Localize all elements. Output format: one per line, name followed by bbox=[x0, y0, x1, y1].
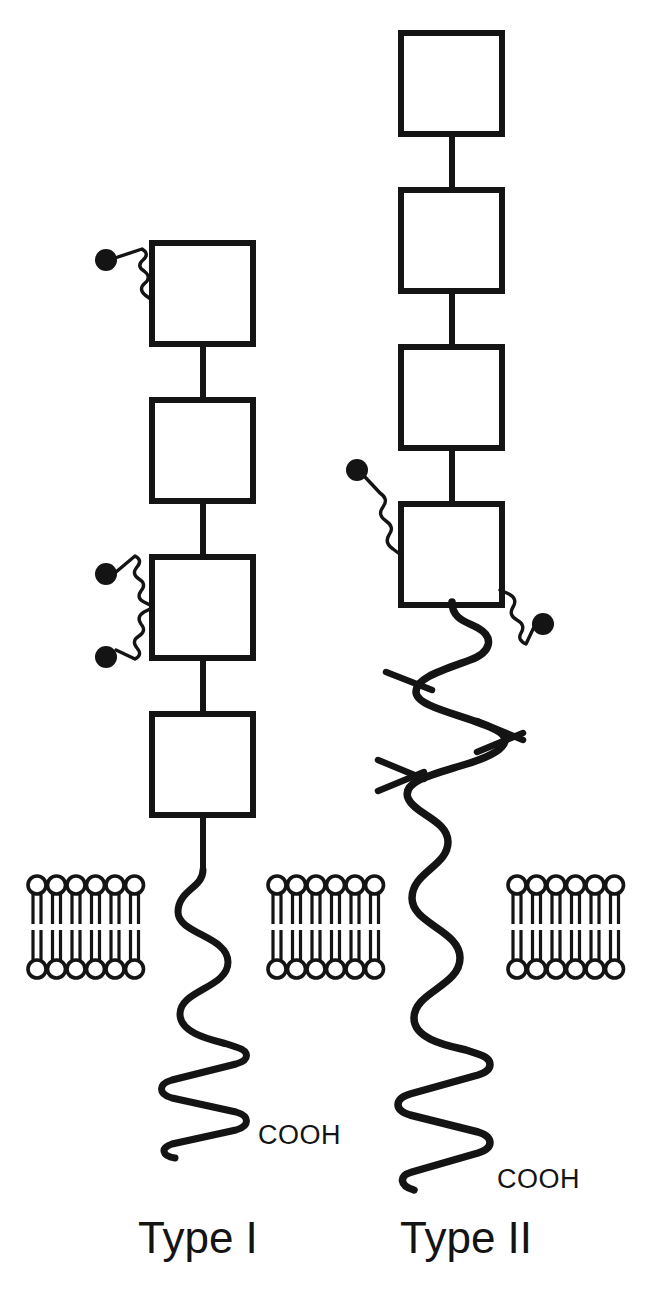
lipid-head-icon bbox=[48, 876, 66, 894]
phospholipid bbox=[268, 930, 286, 978]
type-one-domain-1[interactable] bbox=[152, 243, 253, 344]
lipid-head-icon bbox=[28, 960, 46, 978]
lipid-head-icon bbox=[106, 876, 124, 894]
lipid-head-icon bbox=[126, 960, 144, 978]
phospholipid bbox=[586, 930, 604, 978]
lipid-head-icon bbox=[87, 876, 105, 894]
membrane-protein-diagram: COOH COOH Type I Type II bbox=[0, 0, 663, 1295]
phospholipid bbox=[28, 930, 46, 978]
phospholipid bbox=[87, 930, 105, 978]
cooh-label-type-one: COOH bbox=[258, 1120, 341, 1150]
lipid-head-icon bbox=[508, 876, 526, 894]
phospholipid bbox=[606, 930, 624, 978]
type-two-domain-3[interactable] bbox=[401, 347, 502, 448]
phospholipid bbox=[586, 876, 604, 924]
lipid-head-icon bbox=[567, 960, 585, 978]
glycan-dot-icon bbox=[95, 563, 117, 585]
phospholipid bbox=[327, 930, 345, 978]
glycan-dot-icon bbox=[346, 459, 368, 481]
lipid-head-icon bbox=[366, 960, 384, 978]
lipid-head-icon bbox=[508, 960, 526, 978]
phospholipid bbox=[346, 876, 364, 924]
lipid-head-icon bbox=[126, 876, 144, 894]
lipid-head-icon bbox=[67, 876, 85, 894]
lipid-head-icon bbox=[606, 960, 624, 978]
lipid-head-icon bbox=[48, 960, 66, 978]
phospholipid bbox=[547, 876, 565, 924]
lipid-head-icon bbox=[606, 876, 624, 894]
membrane-middle bbox=[268, 876, 384, 978]
lipid-head-icon bbox=[586, 960, 604, 978]
phospholipid bbox=[508, 930, 526, 978]
lipid-head-icon bbox=[346, 876, 364, 894]
phospholipid bbox=[346, 930, 364, 978]
cooh-label-type-two: COOH bbox=[497, 1164, 580, 1194]
phospholipid bbox=[528, 876, 546, 924]
phospholipid bbox=[288, 930, 306, 978]
lipid-head-icon bbox=[547, 876, 565, 894]
glycan-dot-icon bbox=[95, 646, 117, 668]
phospholipid bbox=[288, 876, 306, 924]
type-one-domain-3[interactable] bbox=[152, 557, 253, 658]
type-two-domain-1[interactable] bbox=[401, 33, 502, 134]
lipid-head-icon bbox=[327, 876, 345, 894]
lipid-head-icon bbox=[346, 960, 364, 978]
glycan-dot-icon bbox=[532, 613, 554, 635]
phospholipid bbox=[327, 876, 345, 924]
lipid-head-icon bbox=[567, 876, 585, 894]
type-one-chain bbox=[162, 870, 247, 1158]
glycan-domain4-left[interactable] bbox=[346, 459, 401, 555]
lipid-head-icon bbox=[528, 960, 546, 978]
phospholipid bbox=[67, 930, 85, 978]
membrane-left bbox=[28, 876, 144, 978]
phospholipid bbox=[366, 876, 384, 924]
type-one-domain-4[interactable] bbox=[152, 714, 253, 815]
lipid-head-icon bbox=[288, 960, 306, 978]
phospholipid bbox=[528, 930, 546, 978]
phospholipid bbox=[508, 876, 526, 924]
glycan-domain3-lower[interactable] bbox=[95, 608, 152, 668]
type-one-label: Type I bbox=[138, 1213, 258, 1262]
type-two-domain-4[interactable] bbox=[401, 504, 502, 605]
glycan-domain1[interactable] bbox=[95, 249, 152, 300]
phospholipid bbox=[28, 876, 46, 924]
glycan-dot-icon bbox=[95, 249, 117, 271]
type-one-group bbox=[95, 243, 253, 1158]
lipid-head-icon bbox=[327, 960, 345, 978]
glycan-domain4-right[interactable] bbox=[500, 590, 554, 644]
lipid-head-icon bbox=[87, 960, 105, 978]
coil-crossover-stubs bbox=[378, 672, 523, 791]
phospholipid bbox=[307, 876, 325, 924]
phospholipid bbox=[126, 930, 144, 978]
phospholipid bbox=[567, 876, 585, 924]
type-two-domain-2[interactable] bbox=[401, 190, 502, 291]
lipid-head-icon bbox=[307, 876, 325, 894]
type-two-label: Type II bbox=[400, 1213, 532, 1262]
lipid-head-icon bbox=[106, 960, 124, 978]
lipid-head-icon bbox=[268, 876, 286, 894]
lipid-head-icon bbox=[28, 876, 46, 894]
phospholipid bbox=[547, 930, 565, 978]
lipid-head-icon bbox=[366, 876, 384, 894]
phospholipid bbox=[106, 930, 124, 978]
lipid-head-icon bbox=[288, 876, 306, 894]
lipid-head-icon bbox=[268, 960, 286, 978]
phospholipid bbox=[48, 930, 66, 978]
lipid-head-icon bbox=[307, 960, 325, 978]
phospholipid bbox=[126, 876, 144, 924]
lipid-head-icon bbox=[67, 960, 85, 978]
phospholipid bbox=[268, 876, 286, 924]
glycan-domain3-upper[interactable] bbox=[95, 556, 152, 606]
figure-canvas: COOH COOH Type I Type II bbox=[0, 0, 663, 1295]
phospholipid bbox=[366, 930, 384, 978]
type-two-chain bbox=[398, 602, 505, 1190]
lipid-head-icon bbox=[547, 960, 565, 978]
type-two-group bbox=[346, 33, 554, 1190]
membrane-right bbox=[508, 876, 624, 978]
phospholipid bbox=[606, 876, 624, 924]
type-one-domain-2[interactable] bbox=[152, 400, 253, 501]
lipid-head-icon bbox=[528, 876, 546, 894]
lipid-head-icon bbox=[586, 876, 604, 894]
membrane-layer bbox=[28, 876, 624, 978]
phospholipid bbox=[106, 876, 124, 924]
